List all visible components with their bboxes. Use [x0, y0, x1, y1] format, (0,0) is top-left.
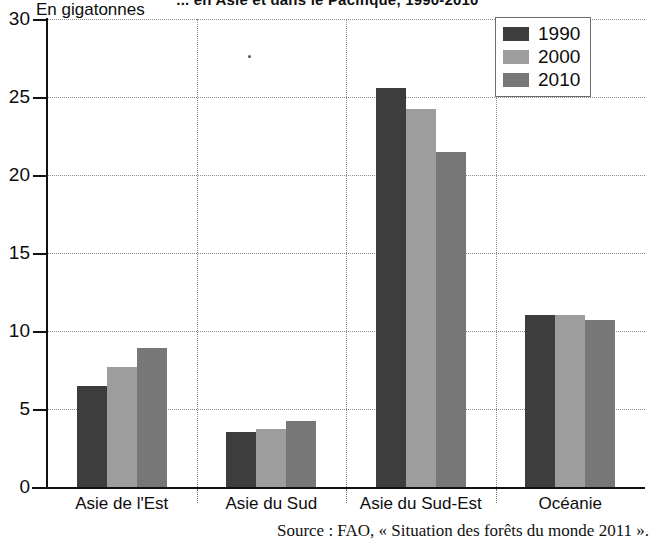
legend-swatch-2000 — [503, 50, 529, 64]
legend-item-2010: 2010 — [503, 68, 580, 91]
legend-item-2000: 2000 — [503, 45, 580, 68]
y-tick-mark-25 — [33, 97, 46, 99]
bar-2000-oc-anie — [555, 315, 585, 487]
legend-label-2010: 2010 — [538, 70, 580, 89]
legend-swatch-1990 — [503, 27, 529, 41]
legend-swatch-2010 — [503, 73, 529, 87]
bar-2010-asie-du-sud — [286, 421, 316, 487]
gridline-v-2 — [346, 19, 347, 487]
gridline-v-1 — [197, 19, 198, 487]
legend-label-2000: 2000 — [538, 47, 580, 66]
bar-1990-oc-anie — [525, 315, 555, 487]
legend: 199020002010 — [495, 17, 591, 97]
y-axis-unit-label: En gigatonnes — [36, 0, 145, 20]
bar-1990-asie-du-sud-est — [376, 88, 406, 487]
scan-artifact-speck — [248, 55, 251, 58]
y-tick-label-20: 20 — [0, 165, 30, 184]
y-tick-label-10: 10 — [0, 321, 30, 340]
y-axis-line — [46, 18, 48, 488]
x-axis-label-4: Océanie — [460, 494, 655, 514]
x-axis-line — [32, 487, 645, 489]
bar-2010-oc-anie — [585, 320, 615, 487]
bar-2000-asie-de-l-est — [107, 367, 137, 487]
y-tick-mark-10 — [33, 331, 46, 333]
y-tick-mark-15 — [33, 253, 46, 255]
y-tick-mark-30 — [33, 19, 46, 21]
source-note: Source : FAO, « Situation des forêts du … — [0, 521, 649, 541]
bar-2010-asie-de-l-est — [137, 348, 167, 487]
y-tick-mark-0 — [33, 487, 46, 489]
y-tick-mark-5 — [33, 409, 46, 411]
bar-2000-asie-du-sud — [256, 429, 286, 487]
bar-1990-asie-du-sud — [226, 432, 256, 487]
y-tick-label-30: 30 — [0, 9, 30, 28]
bar-2010-asie-du-sud-est — [436, 152, 466, 487]
y-tick-label-5: 5 — [0, 399, 30, 418]
y-tick-mark-20 — [33, 175, 46, 177]
y-tick-label-15: 15 — [0, 243, 30, 262]
legend-item-1990: 1990 — [503, 22, 580, 45]
bar-1990-asie-de-l-est — [77, 386, 107, 487]
y-tick-label-25: 25 — [0, 87, 30, 106]
legend-label-1990: 1990 — [538, 24, 580, 43]
bar-2000-asie-du-sud-est — [406, 109, 436, 487]
